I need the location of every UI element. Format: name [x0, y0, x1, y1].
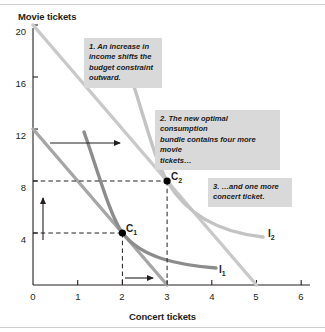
point-c1 — [119, 229, 126, 236]
chart-figure: Movie tickets Concert tickets 20 16 12 8… — [0, 0, 325, 332]
annotation-2-line-2: bundle contains four more movie — [160, 135, 275, 156]
point-label-c2: C2 — [171, 171, 182, 184]
curve-label-i2: I2 — [268, 228, 275, 241]
annotation-1-line-1: 1. An increase in — [89, 42, 157, 52]
original-budget-constraint-line — [33, 129, 167, 285]
annotation-3-line-1: 3. …and one more — [213, 182, 287, 192]
annotation-1-line-4: outward. — [89, 73, 157, 83]
annotation-2: 2. The new optimal consumption bundle co… — [155, 110, 280, 170]
point-label-c2-sub: 2 — [178, 177, 182, 184]
x-tick-marks — [78, 280, 302, 285]
curve-label-i2-sub: 2 — [271, 234, 275, 241]
curve-label-i1-sub: 1 — [222, 270, 226, 277]
annotation-1: 1. An increase in income shifts the budg… — [84, 38, 162, 88]
annotation-1-line-3: budget constraint — [89, 63, 157, 73]
point-c2 — [164, 177, 171, 184]
point-label-c1-sub: 1 — [133, 229, 137, 236]
annotation-2-line-1: 2. The new optimal consumption — [160, 114, 275, 135]
annotation-3-line-2: concert ticket. — [213, 192, 287, 202]
annotation-1-line-2: income shifts the — [89, 52, 157, 62]
annotation-3: 3. …and one more concert ticket. — [208, 178, 292, 207]
annotation-2-line-3: tickets… — [160, 156, 275, 166]
point-label-c1: C1 — [126, 223, 137, 236]
curve-label-i1: I1 — [219, 264, 226, 277]
dashed-guides — [33, 181, 167, 285]
